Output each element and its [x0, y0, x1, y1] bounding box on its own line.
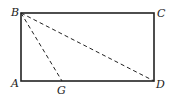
segment-bd [21, 13, 154, 81]
label-g: G [57, 84, 66, 97]
label-a: A [10, 77, 19, 90]
label-b: B [10, 6, 19, 19]
label-d: D [155, 78, 165, 91]
label-c: C [157, 7, 166, 20]
geometry-diagram: B C A G D [0, 0, 174, 101]
